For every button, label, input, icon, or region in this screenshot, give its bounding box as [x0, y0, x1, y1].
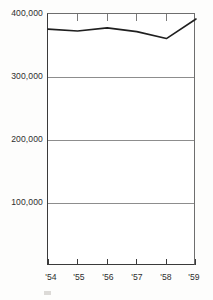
scan-artifact: [44, 291, 51, 295]
x-axis-label-57: '57: [131, 272, 143, 282]
line-chart: 400,000 300,000 200,000 100,000 '54 '55 …: [0, 0, 213, 300]
y-axis-label-200000: 200,000: [0, 134, 43, 144]
y-axis-label-400000: 400,000: [0, 8, 43, 18]
x-axis-label-58: '58: [160, 272, 172, 282]
x-axis-label-56: '56: [102, 272, 114, 282]
data-series-line: [48, 14, 196, 266]
y-axis-label-100000: 100,000: [0, 197, 43, 207]
plot-area: [47, 13, 195, 265]
y-axis-label-300000: 300,000: [0, 71, 43, 81]
x-axis-label-54: '54: [45, 272, 57, 282]
x-axis-label-59: '59: [188, 272, 200, 282]
x-axis-label-55: '55: [73, 272, 85, 282]
